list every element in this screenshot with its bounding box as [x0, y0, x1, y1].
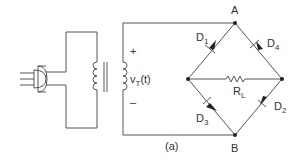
polarity-minus: –: [130, 96, 137, 108]
ac-plug-icon: [20, 66, 47, 92]
figure-caption: (a): [165, 140, 178, 152]
d4-label: D4: [267, 37, 280, 52]
d1-label: D1: [196, 31, 209, 46]
transformer-core-icon: [104, 62, 107, 92]
d2-label: D2: [274, 100, 287, 115]
node-b-label: B: [231, 142, 238, 154]
primary-wiring: [46, 32, 97, 128]
node-a-label: A: [231, 4, 239, 16]
rl-label: RL: [233, 85, 246, 100]
bridge-rectifier-diagram: + – vT(t) A B D1 D4 D3 D2 RL (a): [0, 0, 299, 161]
polarity-plus: +: [130, 45, 136, 57]
secondary-coil-icon: [123, 62, 127, 90]
resistor-icon: [188, 76, 282, 82]
d3-label: D3: [196, 112, 209, 127]
primary-coil-icon: [93, 62, 97, 90]
source-label: vT(t): [130, 73, 151, 88]
